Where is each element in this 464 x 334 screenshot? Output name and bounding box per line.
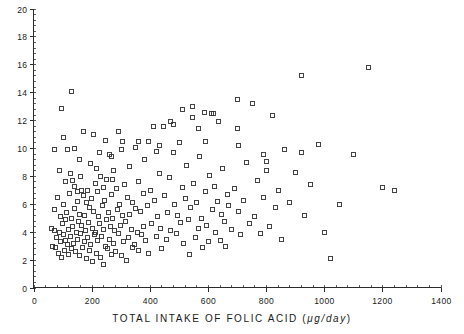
data-point bbox=[75, 231, 79, 235]
y-tick-label: 14 bbox=[17, 88, 27, 98]
data-point bbox=[82, 130, 86, 134]
data-point bbox=[166, 211, 170, 215]
data-point bbox=[253, 215, 257, 219]
data-point bbox=[191, 105, 195, 109]
data-point bbox=[121, 140, 125, 144]
data-point bbox=[68, 192, 72, 196]
data-point bbox=[153, 199, 157, 203]
data-point bbox=[131, 201, 135, 205]
data-point bbox=[120, 148, 124, 152]
data-point bbox=[119, 224, 123, 228]
data-point bbox=[100, 235, 104, 239]
data-point bbox=[62, 203, 66, 207]
data-point bbox=[137, 140, 141, 144]
data-point bbox=[112, 169, 116, 173]
y-tick-label: 8 bbox=[22, 172, 27, 182]
y-tick-label: 2 bbox=[22, 256, 27, 266]
data-point bbox=[140, 233, 144, 237]
data-point bbox=[274, 206, 278, 210]
data-point bbox=[139, 210, 143, 214]
data-point bbox=[158, 144, 162, 148]
data-point bbox=[192, 182, 196, 186]
data-point bbox=[102, 228, 106, 232]
data-point bbox=[101, 204, 105, 208]
data-point bbox=[152, 125, 156, 129]
y-tick-label: 4 bbox=[22, 228, 27, 238]
data-point bbox=[109, 225, 113, 229]
data-point bbox=[317, 143, 321, 147]
data-point bbox=[259, 232, 263, 236]
data-point bbox=[99, 175, 103, 179]
data-point bbox=[191, 116, 195, 120]
data-point bbox=[111, 178, 115, 182]
data-point bbox=[127, 236, 131, 240]
data-point bbox=[160, 247, 164, 251]
y-tick-label: 6 bbox=[22, 200, 27, 210]
data-point bbox=[156, 215, 160, 219]
data-point bbox=[111, 217, 115, 221]
data-point bbox=[181, 108, 185, 112]
data-point bbox=[277, 189, 281, 193]
y-tick-label: 12 bbox=[17, 116, 27, 126]
data-point bbox=[239, 233, 243, 237]
data-point bbox=[220, 213, 224, 217]
data-points bbox=[50, 66, 397, 267]
data-point bbox=[62, 233, 66, 237]
data-point bbox=[59, 240, 63, 244]
data-point bbox=[116, 208, 120, 212]
data-point bbox=[64, 218, 68, 222]
data-point bbox=[194, 236, 198, 240]
data-point bbox=[70, 90, 74, 94]
x-axis-title: TOTAL INTAKE OF FOLIC ACID (μg/day) bbox=[112, 313, 352, 324]
data-point bbox=[213, 185, 217, 189]
data-point bbox=[262, 153, 266, 157]
data-point bbox=[179, 221, 183, 225]
data-point bbox=[84, 229, 88, 233]
data-point bbox=[393, 189, 397, 193]
data-point bbox=[211, 208, 215, 212]
data-point bbox=[352, 153, 356, 157]
data-point bbox=[53, 208, 57, 212]
data-point bbox=[114, 250, 118, 254]
data-point bbox=[303, 214, 307, 218]
data-point bbox=[102, 263, 106, 267]
data-point bbox=[91, 227, 95, 231]
data-point bbox=[155, 235, 159, 239]
data-point bbox=[181, 186, 185, 190]
data-point bbox=[63, 249, 67, 253]
data-point bbox=[66, 243, 70, 247]
data-point bbox=[64, 180, 68, 184]
data-point bbox=[122, 240, 126, 244]
data-point bbox=[76, 238, 80, 242]
data-point bbox=[237, 144, 241, 148]
y-tick-label: 18 bbox=[17, 32, 27, 42]
data-point bbox=[280, 238, 284, 242]
data-point bbox=[137, 249, 141, 253]
data-point bbox=[323, 231, 327, 235]
data-point bbox=[73, 147, 77, 151]
x-tick-label: 400 bbox=[143, 296, 158, 306]
data-point bbox=[147, 252, 151, 256]
data-point bbox=[78, 213, 82, 217]
y-tick-label: 10 bbox=[17, 144, 27, 154]
data-point bbox=[86, 236, 90, 240]
data-point bbox=[224, 245, 228, 249]
data-point bbox=[73, 207, 77, 211]
data-point bbox=[86, 189, 90, 193]
data-point bbox=[142, 225, 146, 229]
data-point bbox=[96, 190, 100, 194]
data-point bbox=[172, 151, 176, 155]
data-point bbox=[91, 260, 95, 264]
data-point bbox=[216, 200, 220, 204]
data-point bbox=[168, 176, 172, 180]
data-point bbox=[118, 203, 122, 207]
data-point bbox=[236, 98, 240, 102]
data-point bbox=[88, 206, 92, 210]
x-tick-label: 800 bbox=[259, 296, 274, 306]
x-tick-label: 1200 bbox=[372, 296, 393, 306]
data-point bbox=[158, 172, 162, 176]
data-point bbox=[98, 151, 102, 155]
data-point bbox=[83, 240, 87, 244]
data-point bbox=[300, 74, 304, 78]
data-point bbox=[214, 231, 218, 235]
